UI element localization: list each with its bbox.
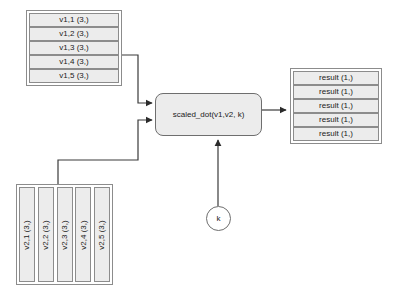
v2-cell: v2,2 (3,) [38, 187, 54, 282]
v2-cell-label: v2,2 (3,) [42, 220, 50, 249]
edge-v2-to-op [58, 120, 152, 184]
v2-cell: v2,3 (3,) [57, 187, 73, 282]
k-scalar-node: k [206, 206, 231, 231]
v2-cell-label: v2,5 (3,) [98, 220, 106, 249]
v2-cell-label: v2,4 (3,) [79, 220, 87, 249]
v2-cell: v2,4 (3,) [75, 187, 91, 282]
result-cell: result (1,) [293, 127, 379, 141]
v2-input-stack: v2,1 (3,) v2,2 (3,) v2,3 (3,) v2,4 (3,) … [16, 184, 113, 285]
v1-cell: v1,2 (3,) [29, 27, 119, 41]
result-cell: result (1,) [293, 99, 379, 113]
diagram-canvas: v1,1 (3,) v1,2 (3,) v1,3 (3,) v1,4 (3,) … [0, 0, 398, 299]
v1-input-stack: v1,1 (3,) v1,2 (3,) v1,3 (3,) v1,4 (3,) … [26, 10, 122, 86]
result-cell: result (1,) [293, 113, 379, 127]
v2-cell: v2,5 (3,) [94, 187, 110, 282]
result-cell: result (1,) [293, 71, 379, 85]
v1-cell: v1,4 (3,) [29, 55, 119, 69]
v2-cell-label: v2,1 (3,) [23, 220, 31, 249]
v1-cell: v1,3 (3,) [29, 41, 119, 55]
v1-cell: v1,1 (3,) [29, 13, 119, 27]
result-output-stack: result (1,) result (1,) result (1,) resu… [290, 68, 382, 144]
v2-cell-label: v2,3 (3,) [61, 220, 69, 249]
v2-cell: v2,1 (3,) [19, 187, 35, 282]
scaled-dot-operation-node: scaled_dot(v1,v2, k) [155, 93, 262, 136]
v1-cell: v1,5 (3,) [29, 69, 119, 83]
edge-v1-to-op [122, 55, 152, 103]
result-cell: result (1,) [293, 85, 379, 99]
